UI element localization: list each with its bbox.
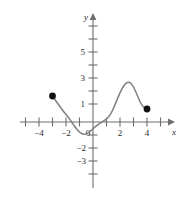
y-tick-label-5: 5 — [81, 47, 86, 57]
x-tick-label-neg2: −2 — [61, 128, 71, 138]
x-axis-arrowhead — [168, 119, 175, 126]
x-tick-label-4: 4 — [145, 128, 150, 138]
y-axis-label: y — [83, 12, 88, 22]
function-curve — [53, 82, 148, 134]
right-endpoint-dot — [144, 106, 151, 113]
y-tick-label-neg3: −3 — [76, 156, 86, 166]
y-tick-label-3: 3 — [81, 73, 86, 83]
y-axis-arrowhead — [90, 13, 97, 20]
y-tick-label-1: 1 — [81, 99, 86, 109]
left-endpoint-dot — [49, 93, 56, 100]
coordinate-plane: −4 −2 0 2 4 5 3 1 −2 −3 x y — [0, 0, 183, 201]
graph-figure: −4 −2 0 2 4 5 3 1 −2 −3 x y — [0, 0, 183, 201]
x-axis-label: x — [171, 127, 176, 137]
x-tick-label-2: 2 — [118, 128, 123, 138]
x-tick-label-neg4: −4 — [34, 128, 44, 138]
y-tick-label-neg2: −2 — [76, 143, 86, 153]
